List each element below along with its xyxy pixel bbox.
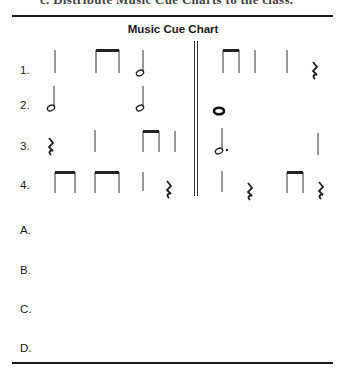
answer-label-d: D. [20, 342, 32, 354]
eighth-pair-icon [287, 171, 303, 193]
answer-label-a: A. [20, 224, 31, 236]
dotted-half-note-icon [214, 128, 228, 155]
quarter-rest-icon [319, 182, 323, 199]
eighth-pair-icon [95, 171, 119, 193]
half-note-icon [135, 86, 144, 112]
whole-note-icon [214, 108, 224, 115]
quarter-rest-icon [49, 138, 53, 155]
eighth-pair-icon [143, 130, 159, 152]
answer-label-b: B. [20, 264, 31, 276]
eighth-pair-icon [96, 49, 119, 73]
quarter-rest-icon [313, 62, 317, 79]
quarter-rest-icon [167, 181, 171, 198]
rhythm-notation [0, 0, 346, 369]
eighth-pair-icon [223, 49, 239, 73]
half-note-icon [46, 86, 55, 112]
half-note-icon [135, 50, 144, 77]
bottom-rule [12, 362, 333, 364]
quarter-rest-icon [248, 183, 252, 200]
answer-label-c: C. [20, 303, 32, 315]
eighth-pair-icon [55, 171, 75, 193]
